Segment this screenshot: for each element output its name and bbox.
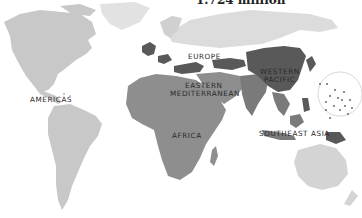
borneo bbox=[290, 114, 304, 128]
madagascar bbox=[210, 146, 218, 166]
europe-west bbox=[142, 42, 156, 56]
russia bbox=[168, 10, 338, 48]
southeast-asia bbox=[272, 92, 290, 116]
philippines bbox=[302, 98, 310, 112]
region-label-western-pacific-line2: PACIFIC bbox=[264, 76, 295, 84]
north-america bbox=[4, 10, 96, 92]
new-zealand bbox=[344, 190, 358, 206]
region-label-southeast-asia: SOUTHEAST ASIA bbox=[259, 130, 330, 138]
region-label-americas: AMERICAS bbox=[30, 96, 72, 104]
greenland bbox=[100, 2, 150, 30]
map-title: 1.724 million bbox=[196, 0, 285, 7]
europe-turkey bbox=[174, 62, 204, 74]
region-label-eastern-mediterranean-line2: MEDITERRANEAN bbox=[170, 90, 240, 98]
pacific-island-dots bbox=[319, 83, 353, 119]
region-label-africa: AFRICA bbox=[172, 132, 202, 140]
region-label-europe: EUROPE bbox=[188, 53, 221, 61]
europe-central bbox=[158, 54, 172, 64]
japan-korea bbox=[306, 56, 316, 72]
south-america bbox=[48, 104, 102, 210]
world-map bbox=[0, 0, 362, 218]
australia bbox=[294, 144, 348, 190]
